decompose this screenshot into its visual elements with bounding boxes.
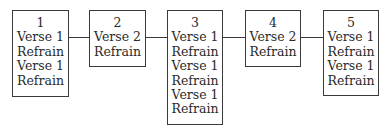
box-line: Verse 2 (246, 30, 300, 44)
box-line: Verse 1 (168, 59, 222, 73)
box-line: Refrain (90, 45, 145, 59)
connector-1-2 (68, 37, 89, 38)
box-line: Refrain (168, 74, 222, 88)
box-line: Verse 1 (13, 59, 68, 73)
box-line: Verse 1 (13, 30, 68, 44)
connector-3-4 (222, 37, 245, 38)
connector-4-5 (300, 37, 323, 38)
box-number: 2 (90, 16, 145, 30)
box-number: 5 (324, 16, 378, 30)
connector-2-3 (145, 37, 167, 38)
box-line: Verse 1 (168, 30, 222, 44)
box-line: Verse 1 (168, 88, 222, 102)
box-line: Verse 2 (90, 30, 145, 44)
section-box-3: 3 Verse 1 Refrain Verse 1 Refrain Verse … (167, 10, 223, 125)
section-box-4: 4 Verse 2 Refrain (245, 10, 301, 67)
box-line: Refrain (168, 45, 222, 59)
section-box-5: 5 Verse 1 Refrain Verse 1 Refrain (323, 10, 379, 96)
box-line: Verse 1 (324, 30, 378, 44)
box-line: Refrain (13, 74, 68, 88)
box-line: Refrain (246, 45, 300, 59)
box-number: 4 (246, 16, 300, 30)
song-structure-diagram: 1 Verse 1 Refrain Verse 1 Refrain 2 Vers… (0, 0, 392, 133)
box-number: 1 (13, 16, 68, 30)
section-box-2: 2 Verse 2 Refrain (89, 10, 146, 67)
section-box-1: 1 Verse 1 Refrain Verse 1 Refrain (12, 10, 69, 97)
box-line: Refrain (13, 45, 68, 59)
box-line: Refrain (168, 102, 222, 116)
box-line: Refrain (324, 74, 378, 88)
box-line: Refrain (324, 45, 378, 59)
box-line: Verse 1 (324, 59, 378, 73)
box-number: 3 (168, 16, 222, 30)
